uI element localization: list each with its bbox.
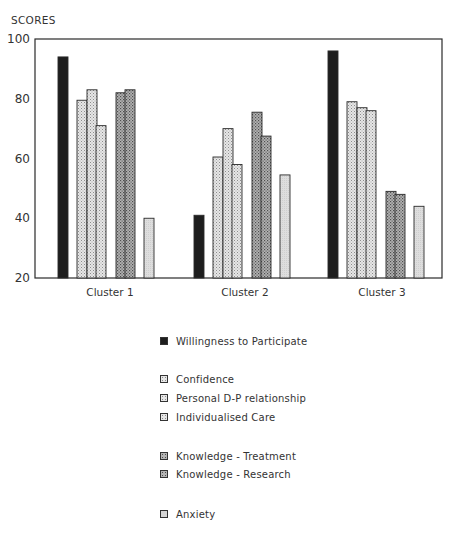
legend-swatch-icon: [160, 337, 168, 345]
legend-swatch-icon: [160, 510, 168, 518]
legend-label: Personal D-P relationship: [176, 393, 306, 404]
bar-individualised-care: [366, 111, 376, 278]
bar-individualised-care: [96, 126, 106, 278]
bar-willingness-to-participate: [194, 215, 204, 278]
legend-swatch-icon: [160, 413, 168, 421]
legend-label: Anxiety: [176, 509, 215, 520]
y-tick-label: 100: [7, 32, 30, 46]
y-axis-ticks: 20406080100: [7, 32, 30, 285]
y-tick-label: 60: [15, 152, 30, 166]
bar-anxiety: [414, 206, 424, 278]
bars: [58, 51, 424, 278]
bar-personal-d-p-relationship: [357, 108, 367, 278]
legend-label: Confidence: [176, 374, 234, 385]
bar-anxiety: [280, 175, 290, 278]
bar-willingness-to-participate: [58, 57, 68, 278]
bar-personal-d-p-relationship: [223, 129, 233, 278]
legend-label: Knowledge - Treatment: [176, 451, 296, 462]
legend-item: Knowledge - Treatment: [160, 449, 296, 463]
legend-item: Confidence: [160, 372, 234, 386]
bar-knowledge-treatment: [252, 112, 262, 278]
bar-individualised-care: [232, 164, 242, 278]
bar-group-cluster-2: [194, 112, 290, 278]
bar-knowledge-treatment: [116, 93, 126, 278]
legend-label: Willingness to Participate: [176, 336, 307, 347]
bar-knowledge-research: [125, 90, 135, 278]
y-tick-label: 20: [15, 271, 30, 285]
legend-swatch-icon: [160, 375, 168, 383]
legend-swatch-icon: [160, 452, 168, 460]
bar-group-cluster-1: [58, 57, 154, 278]
y-axis-title: SCORES: [11, 14, 56, 26]
legend-item: Personal D-P relationship: [160, 391, 306, 405]
x-category-label: Cluster 2: [221, 286, 268, 298]
x-category-label: Cluster 1: [86, 286, 133, 298]
legend-item: Anxiety: [160, 507, 215, 521]
bar-anxiety: [144, 218, 154, 278]
bar-confidence: [213, 157, 223, 278]
legend-item: Willingness to Participate: [160, 334, 307, 348]
y-tick-label: 40: [15, 211, 30, 225]
bar-knowledge-treatment: [386, 191, 396, 278]
bar-personal-d-p-relationship: [87, 90, 97, 278]
legend-label: Individualised Care: [176, 412, 275, 423]
bar-confidence: [77, 100, 87, 278]
legend-item: Knowledge - Research: [160, 467, 291, 481]
bar-knowledge-research: [261, 136, 271, 278]
legend-swatch-icon: [160, 470, 168, 478]
bar-willingness-to-participate: [328, 51, 338, 278]
legend-swatch-icon: [160, 394, 168, 402]
bar-knowledge-research: [395, 194, 405, 278]
bar-group-cluster-3: [328, 51, 424, 278]
x-category-label: Cluster 3: [358, 286, 405, 298]
bar-confidence: [347, 102, 357, 278]
bar-chart: SCORES 20406080100 Cluster 1Cluster 2Clu…: [0, 0, 457, 310]
legend-item: Individualised Care: [160, 410, 275, 424]
legend-label: Knowledge - Research: [176, 469, 291, 480]
y-tick-label: 80: [15, 92, 30, 106]
x-axis-category-labels: Cluster 1Cluster 2Cluster 3: [86, 286, 405, 298]
